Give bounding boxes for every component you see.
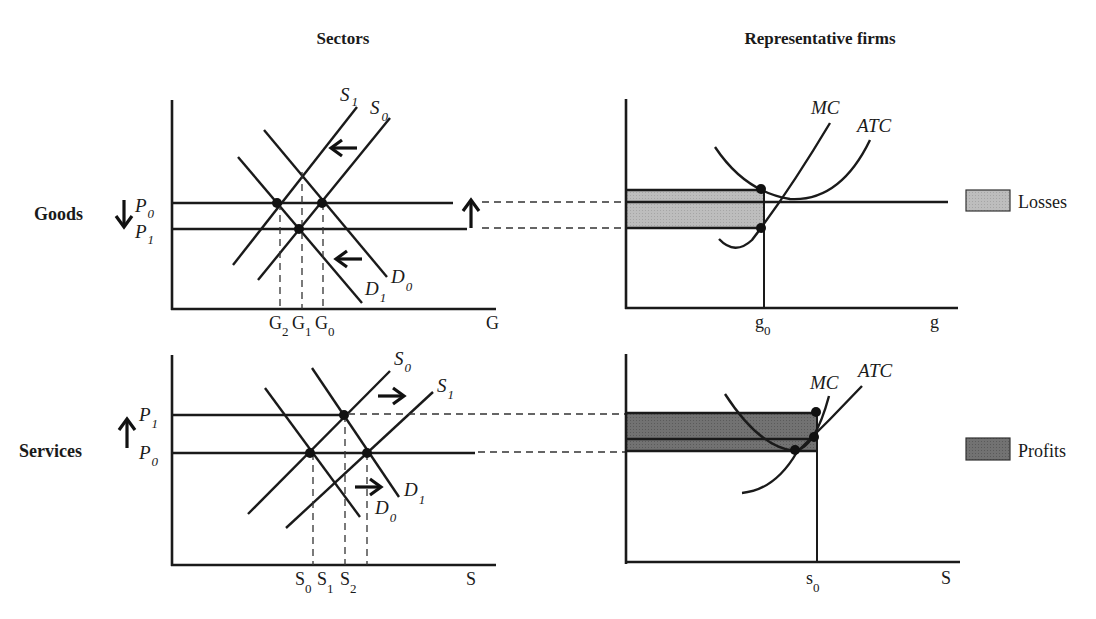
services-s0-tick-label: S0 <box>295 569 312 596</box>
goods-g1-tick-label: G1 <box>292 313 312 339</box>
goods-p0-label: P0 <box>134 195 155 221</box>
goods-sector-chart: P0 P1 S1 S0 D1 D0 G2 G1 G0 G <box>134 84 499 339</box>
goods-firm-chart: MC ATC g0 g <box>625 97 958 338</box>
firms-title: Representative firms <box>744 29 896 48</box>
goods-s1-label: S1 <box>340 84 358 109</box>
goods-firm-x-axis-label: g <box>930 312 939 332</box>
services-firm-mc-label: MC <box>809 372 839 393</box>
services-firm-chart: MC ATC s0 S <box>625 354 960 595</box>
services-demand-shift-right-arrow-icon <box>355 479 381 495</box>
goods-x-axis-label: G <box>486 313 499 333</box>
services-price-up-arrow-icon <box>119 419 135 448</box>
losses-area <box>626 190 764 228</box>
services-s1-label: S1 <box>437 375 454 402</box>
goods-supply-shift-left-arrow-icon <box>331 140 357 156</box>
goods-supply-s1 <box>233 107 357 265</box>
goods-demand-shift-left-arrow-icon <box>336 251 362 267</box>
profits-legend: Profits <box>966 438 1066 461</box>
services-sector-chart: P1 P0 S0 S1 D1 D0 S0 S1 S2 S <box>138 348 496 596</box>
services-firm-atc-dot <box>809 432 819 442</box>
services-firm-price-dot <box>811 407 821 417</box>
services-firm-atc-label: ATC <box>856 360 892 381</box>
goods-g0-tick-label: G0 <box>315 313 335 339</box>
goods-g2-tick-label: G2 <box>269 313 289 339</box>
profits-legend-swatch <box>966 438 1010 460</box>
goods-price-down-arrow-icon <box>116 200 132 227</box>
services-s0-label: S0 <box>394 348 412 375</box>
services-supply-shift-right-arrow-icon <box>378 388 404 404</box>
goods-p1-label: P1 <box>134 221 154 247</box>
services-d1-label: D1 <box>403 479 425 507</box>
services-firm-x-axis-label: S <box>941 568 951 588</box>
goods-d0-label: D0 <box>390 266 413 294</box>
goods-row-label: Goods <box>34 204 83 224</box>
losses-legend-label: Losses <box>1018 192 1067 212</box>
goods-firm-mc-label: MC <box>810 97 840 118</box>
goods-equilibrium-dot <box>272 198 282 208</box>
services-firm-s0-tick-label: s0 <box>806 568 820 595</box>
services-x-axis-label: S <box>466 569 476 589</box>
diagram-canvas: Sectors Representative firms Goods Servi… <box>0 0 1096 619</box>
economics-diagram: Sectors Representative firms Goods Servi… <box>0 0 1096 619</box>
losses-legend-swatch <box>966 190 1010 211</box>
services-p0-label: P0 <box>138 442 159 469</box>
goods-s0-label: S0 <box>370 97 389 124</box>
profits-legend-label: Profits <box>1018 441 1066 461</box>
losses-legend: Losses <box>966 190 1067 212</box>
services-equilibrium-dot <box>362 448 372 458</box>
goods-d1-label: D1 <box>364 278 386 305</box>
services-s1-tick-label: S1 <box>317 569 334 596</box>
profits-area <box>626 413 817 451</box>
goods-firm-g0-tick-label: g0 <box>755 312 771 338</box>
services-firm-min-dot <box>790 445 800 455</box>
services-p1-label: P1 <box>138 404 158 431</box>
services-equilibrium-dot <box>339 410 349 420</box>
services-row-label: Services <box>19 441 82 461</box>
goods-firm-atc-label: ATC <box>855 115 891 136</box>
services-supply-s1 <box>286 392 433 528</box>
services-d0-label: D0 <box>374 497 397 525</box>
goods-equilibrium-dot <box>294 224 304 234</box>
services-s2-tick-label: S2 <box>340 569 357 596</box>
sectors-title: Sectors <box>317 29 370 48</box>
goods-firm-atc-dot <box>756 184 766 194</box>
goods-firm-mc-dot <box>756 223 766 233</box>
services-equilibrium-dot <box>305 448 315 458</box>
goods-firm-price-up-arrow-icon <box>463 200 479 228</box>
goods-equilibrium-dot <box>317 198 327 208</box>
services-demand-d1 <box>312 368 399 497</box>
